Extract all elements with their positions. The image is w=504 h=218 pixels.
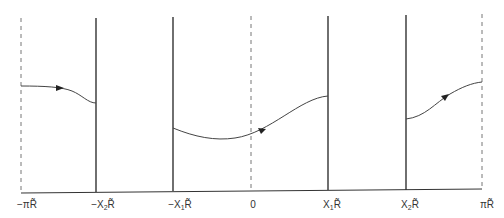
label-text: 0 — [250, 199, 256, 210]
label-pi-r: πR̃ — [480, 199, 494, 211]
label-neg-x2-r: −X2R̃ — [91, 199, 115, 214]
diagram-canvas — [0, 0, 504, 218]
label-r-tilde: R̃ — [412, 199, 419, 210]
label-r-tilde: R̃ — [185, 199, 192, 210]
label-text: X — [323, 199, 330, 210]
label-r-tilde: R̃ — [334, 199, 341, 210]
label-x2-r: X2R̃ — [401, 199, 419, 214]
arrow-icon-left — [56, 85, 64, 91]
label-text: −X — [91, 199, 104, 210]
label-text: πR̃ — [480, 199, 494, 210]
label-text: −πR̃ — [17, 199, 37, 210]
label-zero: 0 — [250, 199, 256, 211]
label-x1-r: X1R̃ — [323, 199, 341, 214]
curve-segment-right — [406, 82, 482, 119]
label-neg-pi-r: −πR̃ — [17, 199, 37, 211]
label-text: X — [401, 199, 408, 210]
label-r-tilde: R̃ — [108, 199, 115, 210]
horizontal-axis — [21, 189, 482, 193]
curve-segment-middle — [173, 96, 328, 139]
label-text: −X — [168, 199, 181, 210]
arrow-icon-middle — [258, 128, 266, 134]
label-neg-x1-r: −X1R̃ — [168, 199, 192, 214]
